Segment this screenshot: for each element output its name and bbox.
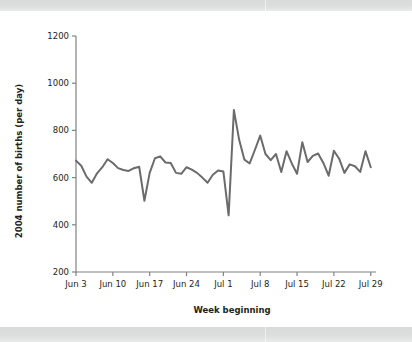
y-tick-label: 400 — [53, 220, 69, 230]
band-seam-bottom — [265, 327, 266, 342]
x-tick-label: Jun 17 — [135, 279, 163, 289]
axis-lines — [76, 36, 376, 272]
top-page-band — [0, 0, 412, 11]
chart-page: 20040060080010001200 Jun 3Jun 10Jun 17Ju… — [0, 0, 412, 342]
x-tick-label: Jul 22 — [321, 279, 346, 289]
chart-figure: 20040060080010001200 Jun 3Jun 10Jun 17Ju… — [0, 11, 412, 327]
y-tick-label: 1000 — [47, 78, 69, 88]
series-group — [76, 110, 371, 215]
x-tick-group: Jun 3Jun 10Jun 17Jun 24Jul 1Jul 8Jul 15J… — [64, 272, 382, 289]
x-axis-title: Week beginning — [193, 305, 270, 315]
births-line-chart: 20040060080010001200 Jun 3Jun 10Jun 17Ju… — [0, 11, 412, 327]
y-tick-group: 20040060080010001200 — [47, 31, 76, 277]
y-axis-title: 2004 number of births (per day) — [14, 84, 24, 238]
y-tick-label: 200 — [53, 267, 69, 277]
x-tick-label: Jul 8 — [250, 279, 269, 289]
x-tick-label: Jul 29 — [358, 279, 383, 289]
x-tick-label: Jun 3 — [64, 279, 86, 289]
x-tick-label: Jun 24 — [172, 279, 200, 289]
y-tick-label: 800 — [53, 125, 69, 135]
x-tick-label: Jul 1 — [213, 279, 232, 289]
x-tick-label: Jul 15 — [284, 279, 309, 289]
y-tick-label: 1200 — [47, 31, 69, 41]
data-series-line — [76, 110, 371, 215]
y-tick-label: 600 — [53, 173, 69, 183]
bottom-page-band — [0, 327, 412, 342]
band-seam — [265, 0, 266, 11]
x-tick-label: Jun 10 — [98, 279, 126, 289]
axes-group — [76, 36, 376, 272]
